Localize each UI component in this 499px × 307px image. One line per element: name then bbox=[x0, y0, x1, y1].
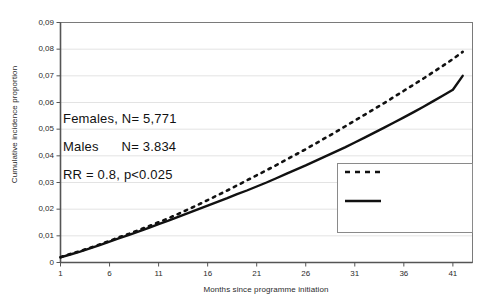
legend-box bbox=[338, 164, 473, 233]
plot-canvas bbox=[0, 0, 499, 307]
chart-figure: Cumulative incidence proportion Months s… bbox=[0, 0, 499, 307]
